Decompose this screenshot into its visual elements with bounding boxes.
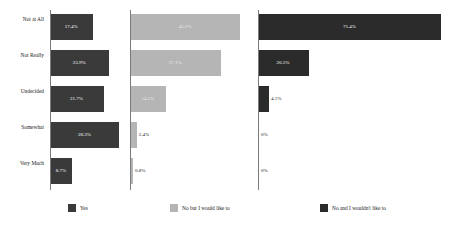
bar [131, 86, 166, 112]
legend-swatch-icon [170, 204, 178, 212]
bar [131, 50, 221, 76]
category-label: Undecided [0, 89, 44, 94]
bar [51, 50, 109, 76]
bar-value-label: 0.8% [135, 158, 145, 184]
bar-value-label: 2.4% [139, 122, 149, 148]
legend-swatch-icon [68, 204, 76, 212]
bar [51, 122, 119, 148]
bar [131, 14, 240, 40]
legend-label: No but I would like to [182, 205, 230, 211]
bar [131, 158, 133, 184]
bar [131, 122, 137, 148]
category-label: Not at All [0, 17, 44, 22]
bar [51, 158, 72, 184]
category-axis-labels: Not at All Not Really Undecided Somewhat… [0, 10, 48, 190]
category-label: Very Much [0, 161, 44, 166]
bar [259, 50, 309, 76]
legend-item-yes: Yes [68, 202, 88, 214]
legend-item-no-but-would-like: No but I would like to [170, 202, 230, 214]
legend-label: No and I wouldn't like to [332, 205, 386, 211]
bar [51, 86, 104, 112]
bar [259, 86, 269, 112]
bar-value-label: 0% [261, 122, 268, 148]
panel-no-but-would-like: 45.2%37.1%14.5%2.4%0.8% [130, 10, 254, 190]
legend-swatch-icon [320, 204, 328, 212]
panel-no-and-wouldnt-like: 75.4%20.5%4.1%0%0% [258, 10, 452, 190]
legend-label: Yes [80, 205, 88, 211]
category-label: Not Really [0, 53, 44, 58]
bar-value-label: 4.1% [271, 86, 281, 112]
bar [259, 14, 441, 40]
grouped-bar-chart: Not at All Not Really Undecided Somewhat… [0, 0, 454, 230]
bar-value-label: 0% [261, 158, 268, 184]
bar [51, 14, 93, 40]
chart-legend: Yes No but I would like to No and I woul… [0, 202, 454, 224]
panel-yes: 17.4%23.9%21.7%28.3%8.7% [50, 10, 128, 190]
legend-item-no-and-wouldnt-like: No and I wouldn't like to [320, 202, 386, 214]
category-label: Somewhat [0, 125, 44, 130]
